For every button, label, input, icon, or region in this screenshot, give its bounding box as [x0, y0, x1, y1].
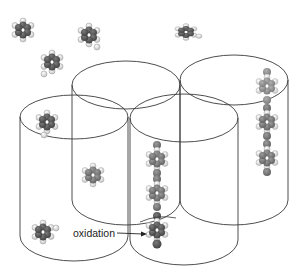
molecule-icon — [82, 163, 104, 187]
molecule-icon — [41, 50, 63, 74]
molecule-icon — [36, 110, 58, 134]
molecule-stack-front-mid — [140, 141, 176, 249]
molecule-icon — [12, 18, 34, 42]
pore-diagram: oxidation — [0, 0, 302, 280]
pore-cylinder-front-mid — [130, 94, 238, 265]
molecule-icon — [78, 23, 100, 47]
free-molecules — [12, 18, 202, 77]
oxidation-annotation: oxidation — [73, 227, 147, 239]
molecule-icon — [32, 220, 59, 244]
oxidation-label: oxidation — [73, 227, 115, 239]
arrow-line — [117, 233, 143, 234]
molecule-stack-back-right — [256, 68, 278, 176]
molecule-icon — [175, 24, 202, 41]
